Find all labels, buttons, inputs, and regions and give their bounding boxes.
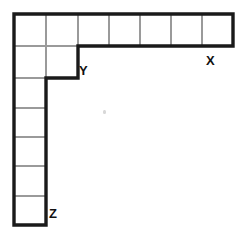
grid-cell-arm-right-4 — [171, 14, 202, 46]
grid-cell-arm-right-1 — [78, 14, 109, 46]
scan-speck-artifact — [103, 110, 106, 114]
grid-cell-arm-right-2 — [109, 14, 140, 46]
grid-cell-arm-down-2 — [14, 108, 46, 137]
grid-cell-arm-right-3 — [140, 14, 171, 46]
grid-cell-block-r0-c0 — [14, 14, 46, 46]
grid-cell-block-r1-c0 — [14, 46, 46, 78]
grid-figure: X Y Z — [0, 0, 242, 236]
grid-cell-arm-down-5 — [14, 196, 46, 225]
grid-cell-arm-down-4 — [14, 166, 46, 196]
vertex-label-y: Y — [79, 64, 88, 77]
grid-cell-arm-down-1 — [14, 78, 46, 108]
grid-cell-arm-right-5 — [202, 14, 233, 46]
grid-cell-block-r0-c1 — [46, 14, 78, 46]
vertex-label-x: X — [206, 54, 215, 67]
grid-cell-arm-down-3 — [14, 137, 46, 166]
figure-canvas — [0, 0, 242, 236]
grid-cell-block-r1-c1 — [46, 46, 78, 78]
vertex-label-z: Z — [49, 207, 57, 220]
